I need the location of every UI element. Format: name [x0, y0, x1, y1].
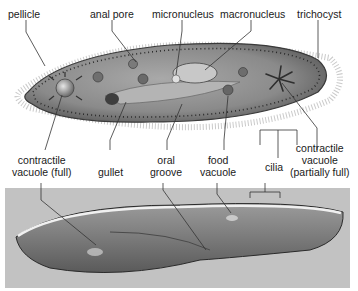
label-line: contractile — [12, 154, 72, 166]
label-line: vacuole — [290, 154, 350, 166]
label-line: vacuole (full) — [12, 166, 72, 178]
label-food-vacuole: food vacuole — [200, 154, 236, 178]
label-line: food — [200, 154, 236, 166]
label-line: oral — [150, 154, 182, 166]
label-pellicle: pellicle — [8, 8, 40, 20]
label-line: (partially full) — [290, 166, 350, 178]
label-trichocyst: trichocyst — [297, 8, 341, 20]
label-gullet: gullet — [98, 166, 123, 178]
label-line: vacuole — [200, 166, 236, 178]
label-contractile-vacuole-full: contractile vacuole (full) — [12, 154, 72, 178]
label-line: contractile — [290, 142, 350, 154]
label-cilia: cilia — [265, 161, 283, 173]
micronucleus-shape — [172, 75, 180, 83]
label-micronucleus: micronucleus — [152, 8, 214, 20]
label-macronucleus: macronucleus — [220, 8, 285, 20]
label-anal-pore: anal pore — [90, 8, 134, 20]
label-contractile-vacuole-partial: contractile vacuole (partially full) — [290, 142, 350, 178]
label-oral-groove: oral groove — [150, 154, 182, 178]
label-line: groove — [150, 166, 182, 178]
